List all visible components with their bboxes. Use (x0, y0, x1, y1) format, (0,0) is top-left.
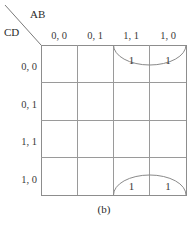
column-variable-label: AB (30, 8, 45, 20)
row-header-0: 0, 0 (21, 61, 37, 72)
row-header-2: 1, 1 (21, 136, 37, 147)
column-header-3: 1, 0 (160, 30, 176, 41)
cell-r3-c3: 1 (165, 180, 171, 192)
cell-r3-c2: 1 (129, 180, 135, 192)
column-header-0: 0, 0 (51, 30, 67, 41)
cell-r0-c2: 1 (129, 54, 135, 66)
figure-caption: (b) (98, 203, 111, 216)
row-variable-label: CD (4, 26, 19, 38)
column-header-2: 1, 1 (123, 30, 139, 41)
column-header-1: 0, 1 (87, 30, 103, 41)
row-header-3: 1, 0 (21, 174, 37, 185)
karnaugh-map-canvas: AB CD 0, 0 0, 1 1, 1 1, 0 0, 0 0, 1 1, 1… (0, 0, 194, 225)
row-header-1: 0, 1 (21, 99, 37, 110)
cell-r0-c3: 1 (165, 54, 171, 66)
karnaugh-map-figure: AB CD 0, 0 0, 1 1, 1 1, 0 0, 0 0, 1 1, 1… (0, 0, 194, 225)
